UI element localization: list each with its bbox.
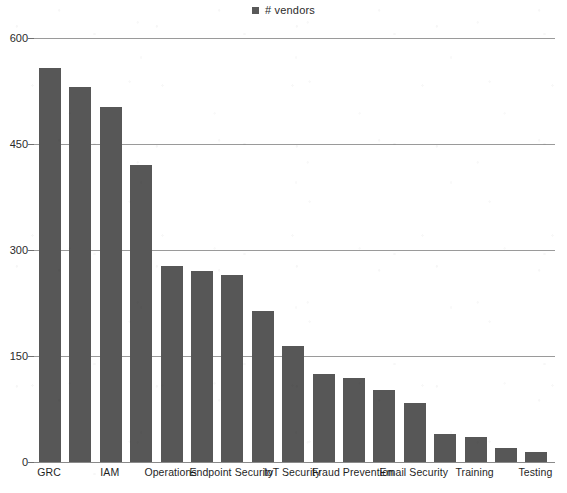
bar: [465, 437, 487, 462]
bar-chart: # vendors 0150300450600 GRCIAMOperations…: [0, 0, 567, 493]
bar: [313, 374, 335, 462]
bar: [161, 266, 183, 462]
bar: [252, 311, 274, 462]
bar: [434, 434, 456, 462]
y-tick-mark: [28, 356, 34, 357]
x-axis-label: Training: [455, 466, 493, 478]
y-tick-mark: [28, 38, 34, 39]
bar: [221, 275, 243, 462]
bar: [100, 107, 122, 462]
bar: [191, 271, 213, 462]
bar: [343, 378, 365, 462]
bar: [373, 390, 395, 462]
x-axis-label: Testing: [518, 466, 552, 478]
y-tick-label: 600: [10, 32, 28, 44]
bar: [525, 452, 547, 462]
bar: [404, 403, 426, 462]
bar: [495, 448, 517, 462]
y-tick-mark: [28, 144, 34, 145]
y-tick-mark: [28, 462, 34, 463]
x-axis-label: Email Security: [380, 466, 449, 478]
plot-area: 0150300450600 GRCIAMOperationsEndpoint S…: [34, 0, 567, 493]
bar-series: [35, 0, 566, 493]
bar: [130, 165, 152, 462]
bar: [282, 346, 304, 462]
legend-label: # vendors: [265, 4, 315, 16]
y-tick-label: 150: [10, 350, 28, 362]
bar: [69, 87, 91, 462]
y-tick-mark: [28, 250, 34, 251]
legend-swatch-icon: [252, 7, 259, 14]
x-axis-label: Endpoint Security: [189, 466, 273, 478]
bar: [39, 68, 61, 462]
x-axis-label: IAM: [100, 466, 119, 478]
y-tick-label: 300: [10, 244, 28, 256]
x-axis-label: GRC: [37, 466, 61, 478]
y-tick-label: 450: [10, 138, 28, 150]
chart-legend: # vendors: [0, 4, 567, 16]
